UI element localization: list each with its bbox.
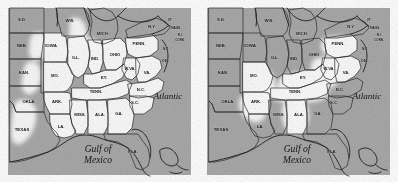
state-area-sd[interactable]	[10, 8, 44, 33]
state-label-iowa: IOWA	[244, 43, 257, 48]
state-label-ky: KY.	[101, 75, 108, 80]
state-label-nj: N.J.	[163, 47, 169, 51]
state-label-okla: OKLA.	[22, 99, 35, 104]
state-label-ind: IND.	[290, 56, 298, 61]
state-label-tenn: TENN.	[289, 89, 302, 94]
state-label-vt: VT.	[367, 18, 372, 22]
state-label-sc: S.C.	[330, 100, 338, 105]
state-label-la: LA.	[257, 124, 264, 129]
state-label-fla: FLA.	[327, 149, 336, 154]
state-label-ri: R.I.	[377, 33, 382, 37]
state-label-vt: VT.	[168, 18, 173, 22]
state-label-texas: TEXAS	[214, 127, 229, 132]
right-map-graphic: S.D.NEB.KAN.OKLA.TEXASWIS.IOWAMO.ARK.LA.…	[199, 0, 398, 182]
state-label-penn: PENN.	[332, 41, 345, 46]
right-map-panel[interactable]: S.D.NEB.KAN.OKLA.TEXASWIS.IOWAMO.ARK.LA.…	[199, 0, 398, 182]
ocean-label-gulf-of: Gulf of	[284, 144, 312, 154]
state-label-tenn: TENN.	[90, 89, 103, 94]
state-label-ark: ARK.	[251, 99, 261, 104]
state-area-ala[interactable]	[88, 100, 108, 134]
state-label-iowa: IOWA	[45, 43, 58, 48]
state-label-va: VA.	[144, 70, 151, 75]
ocean-label-atlantic: Atlantic	[352, 91, 382, 101]
state-area-sd[interactable]	[209, 8, 243, 33]
ocean-label-mexico: Mexico	[282, 155, 311, 165]
state-label-nc: N.C.	[137, 87, 145, 92]
state-label-texas: TEXAS	[15, 127, 30, 132]
state-label-mo: MO.	[250, 73, 258, 78]
state-label-ohio: OHIO	[110, 52, 121, 57]
state-label-mass: MASS.	[171, 26, 181, 30]
state-label-neb: NEB.	[216, 43, 226, 48]
state-label-ny: N.Y.	[347, 24, 355, 29]
state-label-mich: MICH.	[296, 31, 308, 36]
state-label-okla: OKLA.	[221, 99, 234, 104]
state-label-kan: KAN.	[218, 70, 228, 75]
state-label-ohio: OHIO	[309, 52, 320, 57]
state-label-miss: MISS.	[74, 112, 85, 117]
state-label-la: LA.	[58, 124, 65, 129]
state-label-mass: MASS.	[370, 26, 380, 30]
state-label-wis: WIS.	[65, 18, 74, 23]
left-map-graphic: S.D.NEB.KAN.OKLA.TEXASWIS.IOWAMO.ARK.LA.…	[0, 0, 199, 182]
state-label-ky: KY.	[300, 75, 307, 80]
state-label-conn: CONN.	[175, 38, 185, 42]
state-label-del: DEL.	[361, 59, 368, 63]
left-map-panel[interactable]: S.D.NEB.KAN.OKLA.TEXASWIS.IOWAMO.ARK.LA.…	[0, 0, 199, 182]
state-label-ind: IND.	[91, 56, 99, 61]
state-label-ny: N.Y.	[148, 24, 156, 29]
ocean-label-mexico: Mexico	[83, 155, 112, 165]
state-label-sd: S.D.	[217, 17, 225, 22]
state-label-fla: FLA.	[128, 149, 137, 154]
state-label-ri: R.I.	[178, 33, 183, 37]
state-label-mo: MO.	[51, 73, 59, 78]
state-label-miss: MISS.	[273, 112, 284, 117]
two-map-figure: S.D.NEB.KAN.OKLA.TEXASWIS.IOWAMO.ARK.LA.…	[0, 0, 398, 182]
state-label-conn: CONN.	[374, 38, 384, 42]
state-label-mich: MICH.	[97, 31, 109, 36]
state-label-wva: W.VA.	[124, 66, 135, 71]
ocean-label-atlantic: Atlantic	[153, 91, 183, 101]
state-label-ala: ALA.	[294, 112, 304, 117]
state-label-sc: S.C.	[131, 100, 139, 105]
state-label-nc: N.C.	[336, 87, 344, 92]
state-label-ill: ILL.	[271, 55, 278, 60]
state-label-wva: W.VA.	[323, 66, 334, 71]
state-label-ga: GA.	[314, 111, 321, 116]
state-label-va: VA.	[343, 70, 350, 75]
state-label-wis: WIS.	[264, 18, 273, 23]
ocean-label-gulf-of: Gulf of	[85, 144, 113, 154]
state-label-penn: PENN.	[133, 41, 146, 46]
state-label-neb: NEB.	[17, 43, 27, 48]
state-label-ark: ARK.	[52, 99, 62, 104]
state-label-kan: KAN.	[19, 70, 29, 75]
state-label-ga: GA.	[115, 111, 122, 116]
state-label-nj: N.J.	[362, 47, 368, 51]
state-label-ala: ALA.	[95, 112, 105, 117]
state-label-ill: ILL.	[72, 55, 79, 60]
state-label-del: DEL.	[162, 59, 169, 63]
state-label-sd: S.D.	[18, 17, 26, 22]
